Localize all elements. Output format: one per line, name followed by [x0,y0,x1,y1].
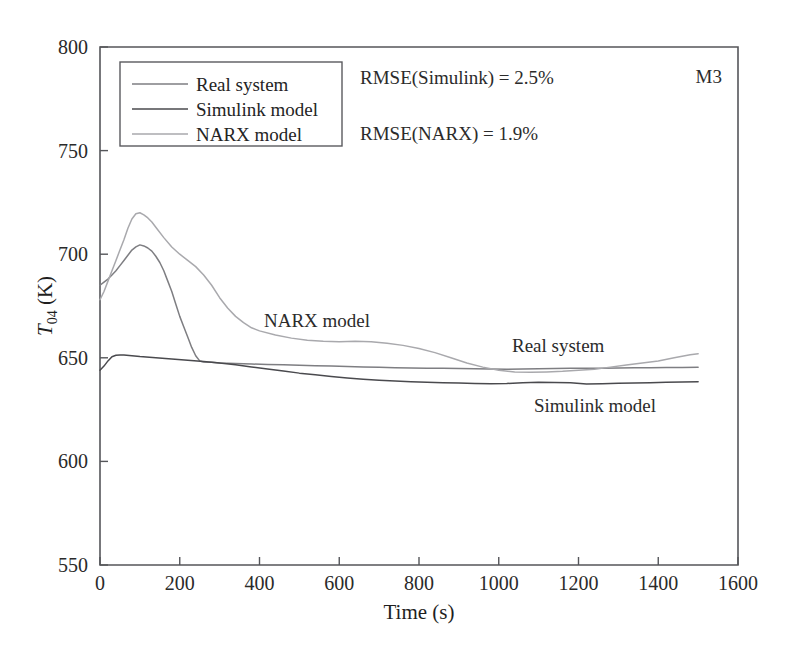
y-axis-subscript: 04 [45,310,60,324]
y-tick-label: 750 [58,140,88,162]
y-tick-label: 550 [58,554,88,576]
series-line-real-system [100,245,698,369]
plot-annotations: RMSE(Simulink) = 2.5%RMSE(NARX) = 1.9%NA… [264,67,656,416]
y-axis-ticks [100,47,108,565]
y-axis-unit: (K) [33,276,57,310]
chart-legend: Real systemSimulink modelNARX model [120,62,342,146]
curve-label-simulink-model: Simulink model [534,395,656,416]
series-line-simulink-model [100,355,698,384]
series-line-narx-model [100,213,698,373]
x-tick-label: 1600 [718,572,758,594]
y-axis-title: T04 (K) [33,276,60,336]
y-tick-label: 650 [58,347,88,369]
x-tick-label: 1000 [479,572,519,594]
y-axis-tick-labels: 550600650700750800 [58,36,88,576]
x-axis-tick-labels: 02004006008001000120014001600 [95,572,758,594]
temperature-time-chart: 02004006008001000120014001600 5506006507… [0,0,790,655]
curve-label-real-system: Real system [512,335,605,356]
x-tick-label: 600 [324,572,354,594]
rmse-annotation: RMSE(Simulink) = 2.5% [360,67,554,89]
rmse-annotation: RMSE(NARX) = 1.9% [360,123,538,145]
x-tick-label: 200 [165,572,195,594]
x-tick-label: 0 [95,572,105,594]
data-series-group [100,213,698,384]
figure-container: 02004006008001000120014001600 5506006507… [0,0,790,655]
y-tick-label: 700 [58,243,88,265]
x-axis-title: Time (s) [384,600,455,624]
svg-text:T04 (K): T04 (K) [33,276,60,336]
x-axis-ticks [100,557,738,565]
x-tick-label: 400 [245,572,275,594]
legend-label-real-system: Real system [196,74,289,95]
legend-label-narx-model: NARX model [196,124,302,145]
y-tick-label: 800 [58,36,88,58]
corner-label-m3: M3 [696,66,722,87]
y-tick-label: 600 [58,450,88,472]
x-tick-label: 800 [404,572,434,594]
legend-label-simulink-model: Simulink model [196,99,318,120]
x-tick-label: 1200 [559,572,599,594]
curve-label-narx-model: NARX model [264,310,370,331]
x-tick-label: 1400 [638,572,678,594]
